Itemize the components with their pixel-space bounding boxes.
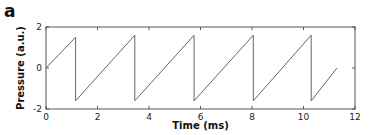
x-tick-label: 2 (95, 112, 101, 122)
x-tick-label: 4 (146, 112, 152, 122)
x-tick-label: 12 (349, 112, 360, 122)
y-tick-label: 2 (36, 22, 42, 32)
x-tick-label: 10 (298, 112, 310, 122)
x-tick-label: 8 (249, 112, 255, 122)
sawtooth-pressure-chart: 024681012-202Time (ms)Pressure (a.u.) (0, 0, 381, 135)
x-axis-title: Time (ms) (172, 120, 228, 131)
y-axis-title: Pressure (a.u.) (15, 26, 26, 110)
y-tick-label: 0 (36, 63, 42, 73)
plot-frame (46, 27, 355, 109)
x-tick-label: 0 (43, 112, 49, 122)
y-tick-label: -2 (33, 104, 42, 114)
series-line (46, 35, 337, 101)
